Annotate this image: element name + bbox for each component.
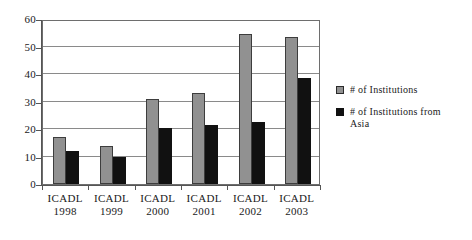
legend-swatch-icon [336,86,344,94]
y-tick-text: 10 [4,152,36,163]
y-tick-label-10: 10 [0,152,36,163]
legend-item: # of Institutions [336,84,468,96]
y-tick-text: 20 [4,124,36,135]
y-tick-label-40: 40 [0,69,36,80]
bar [53,137,66,184]
gridline-30 [43,101,319,102]
bar [146,99,159,184]
chart-legend: # of Institutions# of Institutions fromA… [336,84,468,140]
gridline-40 [43,73,319,74]
y-tick-text: 0 [4,179,36,190]
bar [113,157,126,185]
y-tick-label-20: 20 [0,124,36,135]
bar-chart: 0102030405060 ICADL1998ICADL1999ICADL200… [0,0,472,240]
bar [192,93,205,184]
bar [298,78,311,184]
bar [159,128,172,184]
y-tick-mark-40 [36,75,42,76]
y-tick-label-60: 60 [0,14,36,25]
bar [285,37,298,184]
y-tick-mark-50 [36,48,42,49]
y-tick-mark-30 [36,103,42,104]
x-category-label: ICADL2003 [269,192,325,218]
y-tick-label-0: 0 [0,179,36,190]
legend-item: # of Institutions fromAsia [336,106,468,130]
x-tick-mark [227,185,228,190]
legend-label-line2: Asia [350,118,468,130]
y-tick-text: 30 [4,97,36,108]
gridline-50 [43,46,319,47]
legend-label: # of Institutions [350,84,468,96]
y-tick-text: 60 [4,14,36,25]
x-tick-mark [274,185,275,190]
x-tick-mark [42,185,43,190]
x-category-year: 2003 [269,205,325,218]
y-tick-mark-10 [36,158,42,159]
x-tick-mark [181,185,182,190]
x-tick-mark [88,185,89,190]
x-tick-mark [135,185,136,190]
legend-swatch-icon [336,108,344,116]
y-tick-text: 40 [4,69,36,80]
x-tick-mark [320,185,321,190]
bar [100,146,113,185]
y-tick-mark-60 [36,20,42,21]
bar [252,122,265,184]
bar [239,34,252,184]
bar [66,151,79,184]
y-tick-label-50: 50 [0,42,36,53]
gridline-20 [43,128,319,129]
bar [205,125,218,184]
plot-area [42,20,320,185]
x-category-name: ICADL [269,192,325,205]
y-tick-label-30: 30 [0,97,36,108]
legend-label: # of Institutions from [350,106,468,118]
gridline-10 [43,156,319,157]
y-tick-text: 50 [4,42,36,53]
y-tick-mark-20 [36,130,42,131]
